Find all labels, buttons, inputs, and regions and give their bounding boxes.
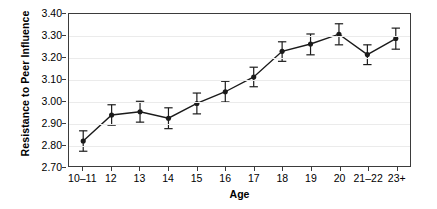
y-axis-tick-label: 3.30 (30, 29, 62, 41)
data-point-marker (166, 116, 171, 121)
x-axis-tick-label: 12 (105, 172, 117, 184)
x-axis-tick-mark (340, 167, 341, 171)
gridline (69, 146, 410, 147)
plot-area (68, 13, 411, 167)
gridline (69, 36, 410, 37)
x-axis-tick-label: 21–22 (354, 172, 383, 184)
y-axis-tick-mark (62, 145, 66, 146)
x-axis-tick-mark (225, 167, 226, 171)
y-axis-tick-label: 2.80 (30, 139, 62, 151)
x-axis-tick-label: 14 (162, 172, 174, 184)
x-axis-tick-mark (397, 167, 398, 171)
y-axis-tick-label: 3.20 (30, 51, 62, 63)
gridline (69, 80, 410, 81)
gridline (69, 124, 410, 125)
x-axis-tick-label: 19 (305, 172, 317, 184)
x-axis-tick-mark (368, 167, 369, 171)
x-axis-tick-mark (197, 167, 198, 171)
y-axis-tick-label: 3.00 (30, 95, 62, 107)
y-axis-tick-mark (62, 35, 66, 36)
data-point-marker (109, 112, 114, 117)
y-axis-tick-mark (62, 101, 66, 102)
x-axis-tick-mark (254, 167, 255, 171)
y-axis-tick-label: 2.90 (30, 117, 62, 129)
x-axis-tick-labels: 10–1112131415161718192021–2223+ (68, 172, 411, 186)
x-axis-tick-mark (282, 167, 283, 171)
x-axis-tick-mark (139, 167, 140, 171)
data-point-marker (280, 49, 285, 54)
y-axis-tick-labels: 2.702.802.903.003.103.203.303.40 (29, 0, 62, 209)
data-point-marker (223, 89, 228, 94)
series-line (83, 34, 396, 141)
x-axis-tick-mark (311, 167, 312, 171)
data-point-marker (81, 138, 86, 143)
y-axis-tick-mark (62, 167, 66, 168)
x-axis-tick-label: 20 (334, 172, 346, 184)
x-axis-tick-label: 17 (248, 172, 260, 184)
y-axis-tick-mark (62, 79, 66, 80)
data-point-marker (251, 74, 256, 79)
gridline (69, 102, 410, 103)
x-axis-tick-mark (111, 167, 112, 171)
x-axis-tick-label: 16 (219, 172, 231, 184)
x-axis-tick-label: 15 (191, 172, 203, 184)
data-point-marker (365, 52, 370, 57)
y-axis-tick-mark (62, 123, 66, 124)
x-axis-tick-label: 13 (134, 172, 146, 184)
y-axis-tick-mark (62, 13, 66, 14)
y-axis-tick-label: 3.10 (30, 73, 62, 85)
x-axis-tick-mark (168, 167, 169, 171)
x-axis-tick-mark (82, 167, 83, 171)
y-axis-tick-label: 3.40 (30, 7, 62, 19)
chart-figure: Resistance to Peer Influence 2.702.802.9… (0, 0, 437, 209)
y-axis-tick-label: 2.70 (30, 161, 62, 173)
x-axis-tick-label: 18 (277, 172, 289, 184)
x-axis-tick-label: 10–11 (68, 172, 96, 184)
data-point-marker (137, 109, 142, 114)
gridline (69, 58, 410, 59)
x-axis-title: Age (68, 188, 411, 200)
y-axis-tick-mark (62, 57, 66, 58)
x-axis-tick-label: 23+ (388, 172, 406, 184)
data-point-marker (308, 41, 313, 46)
